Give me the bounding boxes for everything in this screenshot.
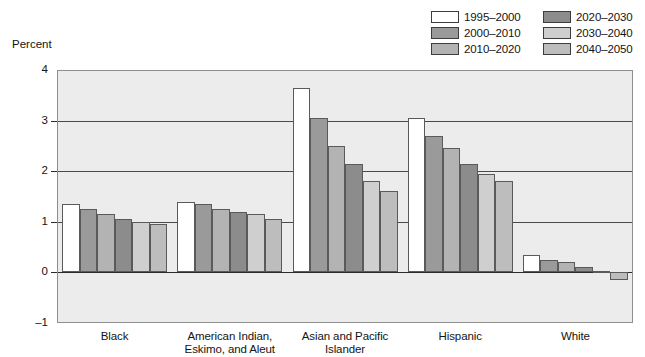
x-category-label-4: White xyxy=(518,330,633,343)
gridline-3 xyxy=(58,121,632,122)
chart-legend: 1995–2000 2020–2030 2000–2010 2030–2040 … xyxy=(431,9,643,57)
legend-item-2040-2050: 2040–2050 xyxy=(543,41,643,57)
x-category-label-0: Black xyxy=(57,330,172,343)
x-category-label-line: White xyxy=(518,330,633,343)
legend-item-2000-2010: 2000–2010 xyxy=(431,25,543,41)
legend-swatch-2020-2030 xyxy=(543,11,571,23)
y-tick-label-4: 4 xyxy=(26,64,48,74)
legend-swatch-1995-2000 xyxy=(431,11,459,23)
legend-item-1995-2000: 1995–2000 xyxy=(431,9,543,25)
y-tick-label-1: 1 xyxy=(26,216,48,226)
y-tick-label-2: 2 xyxy=(26,165,48,175)
x-category-label-3: Hispanic xyxy=(403,330,518,343)
legend-label-2000-2010: 2000–2010 xyxy=(464,27,521,39)
legend-item-2030-2040: 2030–2040 xyxy=(543,25,643,41)
legend-swatch-2040-2050 xyxy=(543,43,571,55)
x-category-label-line: Islander xyxy=(287,343,402,356)
y-tick-mark-0 xyxy=(51,272,57,273)
legend-label-2020-2030: 2020–2030 xyxy=(576,11,633,23)
chart-page: 1995–2000 2020–2030 2000–2010 2030–2040 … xyxy=(0,0,645,357)
legend-swatch-2010-2020 xyxy=(431,43,459,55)
zero-axis-line xyxy=(58,272,632,273)
legend-label-2040-2050: 2040–2050 xyxy=(576,43,633,55)
y-tick-label--1: –1 xyxy=(26,317,48,327)
y-tick-mark-3 xyxy=(51,121,57,122)
x-category-label-line: American Indian, xyxy=(172,330,287,343)
legend-item-2020-2030: 2020–2030 xyxy=(543,9,643,25)
x-category-label-line: Eskimo, and Aleut xyxy=(172,343,287,356)
x-category-label-line: Hispanic xyxy=(403,330,518,343)
gridline-2 xyxy=(58,171,632,172)
legend-swatch-2000-2010 xyxy=(431,27,459,39)
legend-label-2030-2040: 2030–2040 xyxy=(576,27,633,39)
legend-label-1995-2000: 1995–2000 xyxy=(464,11,521,23)
y-tick-mark-2 xyxy=(51,171,57,172)
x-category-label-line: Black xyxy=(57,330,172,343)
legend-swatch-2030-2040 xyxy=(543,27,571,39)
x-category-label-2: Asian and PacificIslander xyxy=(287,330,402,356)
y-tick-label-0: 0 xyxy=(26,266,48,276)
gridline-1 xyxy=(58,222,632,223)
plot-area xyxy=(57,70,633,323)
y-tick-mark-1 xyxy=(51,222,57,223)
y-tick-label-3: 3 xyxy=(26,115,48,125)
y-axis-title: Percent xyxy=(12,38,52,50)
legend-item-2010-2020: 2010–2020 xyxy=(431,41,543,57)
legend-label-2010-2020: 2010–2020 xyxy=(464,43,521,55)
x-category-label-line: Asian and Pacific xyxy=(287,330,402,343)
x-category-label-1: American Indian,Eskimo, and Aleut xyxy=(172,330,287,356)
